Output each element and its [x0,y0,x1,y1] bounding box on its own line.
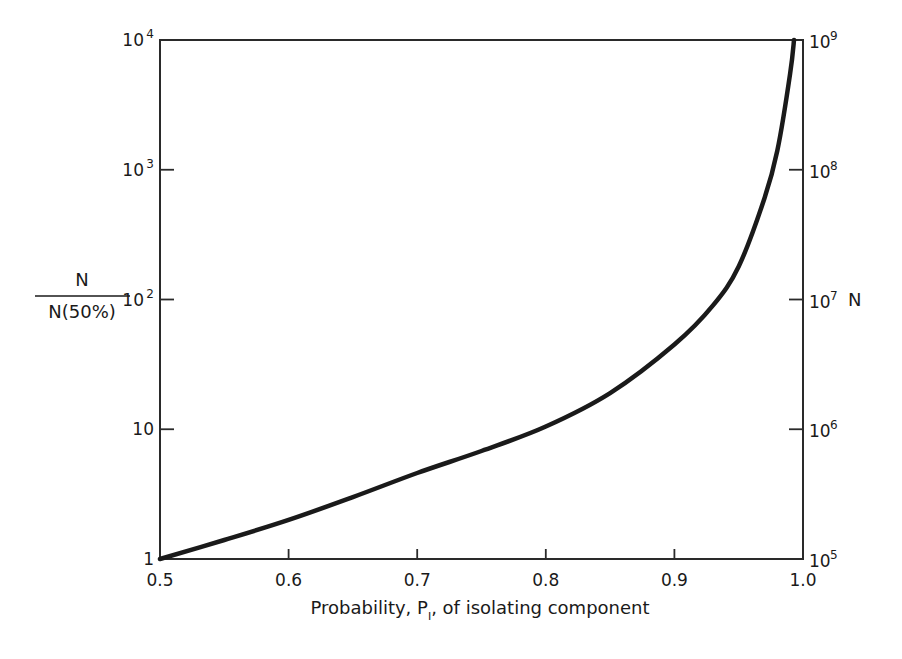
x-tick-label: 0.7 [404,570,431,590]
left-y-tick-label: 10 [122,290,144,310]
x-tick-label: 0.9 [661,570,688,590]
right-y-axis-title: N [848,289,861,310]
data-curve [160,40,794,559]
x-tick-label: 1.0 [789,570,816,590]
left-y-tick-label: 10 [122,30,144,50]
x-tick-label: 0.5 [146,570,173,590]
right-y-tick-label: 10 [809,162,831,182]
right-y-axis-ticks: 105106107108109 [789,29,838,571]
right-y-tick-label: 10 [809,551,831,571]
x-tick-label: 0.8 [532,570,559,590]
left-y-axis-title: N N(50%) [35,269,130,322]
chart-canvas: 0.50.60.70.80.91.0 110102103104 10510610… [0,0,902,659]
plot-border [160,40,803,559]
right-y-tick-label: 10 [809,421,831,441]
left-y-title-numerator: N [75,269,88,290]
right-y-tick-exponent: 9 [830,29,838,43]
left-y-tick-label: 1 [143,549,154,569]
right-y-tick-exponent: 6 [830,418,838,432]
left-y-tick-label: 10 [122,160,144,180]
x-tick-label: 0.6 [275,570,302,590]
left-y-tick-exponent: 3 [146,157,154,171]
x-title-before: Probability, P [310,597,428,618]
x-title-after: , of isolating component [431,597,649,618]
x-axis-title: Probability, PI, of isolating component [310,597,649,623]
right-y-tick-label: 10 [809,32,831,52]
right-y-tick-exponent: 8 [830,159,838,173]
left-y-tick-label: 10 [132,419,154,439]
left-y-tick-exponent: 4 [146,27,154,41]
left-y-tick-exponent: 2 [146,287,154,301]
right-y-tick-label: 10 [809,292,831,312]
right-y-tick-exponent: 7 [830,289,838,303]
x-axis-ticks: 0.50.60.70.80.91.0 [146,549,816,590]
right-y-tick-exponent: 5 [830,548,838,562]
left-y-title-denominator: N(50%) [48,301,116,322]
plot-frame [160,40,803,559]
left-y-axis-ticks: 110102103104 [122,27,174,569]
